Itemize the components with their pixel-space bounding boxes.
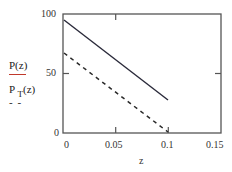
- y-tick-label-0: 0: [54, 128, 59, 138]
- legend-p-swatch: [9, 74, 26, 75]
- x-tick-label-005: 0.05: [105, 140, 123, 150]
- series-p-line: [64, 20, 168, 100]
- legend-p: P(z): [9, 59, 27, 71]
- series-pt-line: [64, 53, 168, 132]
- x-tick-label-015: 0.15: [206, 140, 224, 150]
- legend-p-label: P(z): [9, 59, 27, 71]
- legend-pt-arg: (z): [23, 83, 35, 95]
- plot-frame: [63, 14, 221, 133]
- y-tick-label-50: 50: [46, 68, 56, 78]
- x-axis-label: z: [139, 156, 143, 166]
- x-tick-label-01: 0.1: [161, 140, 174, 150]
- legend-pt-swatch: - -: [9, 96, 22, 108]
- x-tick-label-0: 0: [64, 140, 69, 150]
- y-tick-label-100: 100: [41, 9, 56, 19]
- legend-pt: P T(z): [9, 83, 35, 95]
- legend-pt-main: P: [9, 83, 15, 95]
